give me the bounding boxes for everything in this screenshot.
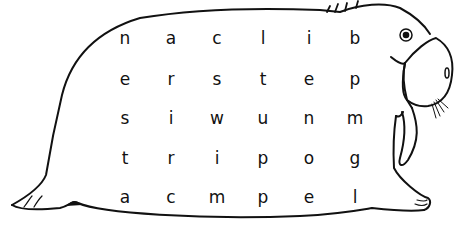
grid-letter[interactable]: l bbox=[251, 26, 275, 50]
grid-letter[interactable]: p bbox=[343, 67, 367, 91]
grid-letter[interactable]: t bbox=[251, 67, 275, 91]
grid-letter[interactable]: c bbox=[205, 26, 229, 50]
grid-letter[interactable]: u bbox=[251, 106, 275, 130]
grid-letter[interactable]: n bbox=[113, 26, 137, 50]
grid-letter[interactable]: m bbox=[343, 106, 367, 130]
grid-letter[interactable]: g bbox=[343, 146, 367, 170]
grid-letter[interactable]: l bbox=[343, 185, 367, 209]
grid-letter[interactable]: o bbox=[297, 146, 321, 170]
grid-letter[interactable]: w bbox=[205, 106, 229, 130]
grid-letter[interactable]: e bbox=[113, 67, 137, 91]
grid-letter[interactable]: b bbox=[343, 26, 367, 50]
grid-letter[interactable]: t bbox=[113, 146, 137, 170]
grid-letter[interactable]: c bbox=[159, 185, 183, 209]
grid-letter[interactable]: p bbox=[251, 146, 275, 170]
grid-letter[interactable]: s bbox=[113, 106, 137, 130]
grid-letter[interactable]: i bbox=[205, 146, 229, 170]
grid-letter[interactable]: i bbox=[297, 26, 321, 50]
grid-letter[interactable]: i bbox=[159, 106, 183, 130]
grid-letter[interactable]: a bbox=[113, 185, 137, 209]
grid-letter[interactable]: r bbox=[159, 146, 183, 170]
grid-letter[interactable]: e bbox=[297, 185, 321, 209]
grid-letter[interactable]: n bbox=[297, 106, 321, 130]
grid-letter[interactable]: e bbox=[297, 67, 321, 91]
grid-letter[interactable]: s bbox=[205, 67, 229, 91]
grid-letter[interactable]: a bbox=[159, 26, 183, 50]
grid-letter[interactable]: r bbox=[159, 67, 183, 91]
grid-letter[interactable]: m bbox=[205, 185, 229, 209]
grid-letter[interactable]: p bbox=[251, 185, 275, 209]
word-search-grid: nacliberstepsiwunmtripogacmpel bbox=[0, 0, 467, 231]
